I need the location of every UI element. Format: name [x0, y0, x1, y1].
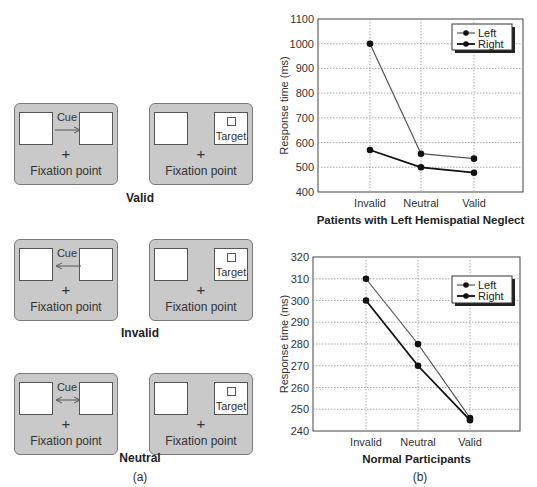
target-label: Target [215, 130, 247, 142]
cue-arrow-right-icon [55, 126, 81, 134]
y-tick-label: 1100 [290, 13, 314, 25]
x-tick-label: Neutral [400, 436, 435, 448]
fixation-cross-icon: + [150, 416, 252, 431]
chart-normal-participants: 240250260270280290300310320InvalidNeutra… [278, 245, 537, 487]
cue-arrow-left-icon [55, 262, 81, 270]
y-tick-label: 800 [296, 87, 314, 99]
fixation-label: Fixation point [15, 434, 117, 448]
legend-marker-icon [463, 30, 469, 36]
legend-marker-icon [463, 41, 469, 47]
x-axis-label: Normal Participants [362, 453, 471, 465]
target-screen-valid: Target+Fixation point [149, 103, 253, 185]
condition-label-valid: Valid [0, 191, 280, 205]
legend-marker-icon [463, 282, 469, 288]
fixation-cross-icon: + [150, 146, 252, 161]
x-axis-label: Patients with Left Hemispatial Neglect [317, 214, 525, 226]
target-screen-invalid: Target+Fixation point [149, 239, 253, 321]
x-tick-label: Invalid [354, 197, 386, 209]
y-tick-label: 250 [291, 403, 309, 415]
target-square-icon [227, 253, 236, 262]
chart-neglect-patients: 40050060070080090010001100InvalidNeutral… [278, 0, 537, 232]
y-tick-label: 260 [291, 382, 309, 394]
target-location-box: Target [214, 112, 248, 145]
target-label: Target [215, 266, 247, 278]
cue-arrow-both-icon [55, 396, 81, 404]
left-location-box [19, 248, 53, 281]
left-location-box [154, 382, 188, 415]
fixation-label: Fixation point [150, 434, 252, 448]
x-tick-label: Valid [458, 436, 482, 448]
y-tick-label: 270 [291, 360, 309, 372]
y-tick-label: 500 [296, 161, 314, 173]
data-point-left [415, 341, 422, 348]
cue-label: Cue [53, 381, 81, 393]
target-square-icon [227, 387, 236, 396]
cue-screen-valid: Cue+Fixation point [14, 103, 118, 185]
fixation-label: Fixation point [15, 300, 117, 314]
left-location-box [19, 112, 53, 145]
data-point-left [363, 275, 370, 282]
fixation-label: Fixation point [150, 300, 252, 314]
y-tick-label: 700 [296, 112, 314, 124]
fixation-cross-icon: + [15, 416, 117, 431]
data-point-left [471, 155, 478, 162]
panel-a-label: (a) [0, 470, 280, 484]
fixation-label: Fixation point [15, 164, 117, 178]
data-point-left [418, 150, 425, 157]
data-point-right [467, 417, 474, 424]
y-tick-label: 900 [296, 62, 314, 74]
x-tick-label: Invalid [350, 436, 382, 448]
data-point-right [415, 362, 422, 369]
fixation-cross-icon: + [150, 282, 252, 297]
data-point-right [471, 169, 478, 176]
data-point-right [367, 147, 374, 154]
y-tick-label: 310 [291, 273, 309, 285]
cue-screen-invalid: Cue+Fixation point [14, 239, 118, 321]
right-location-box [79, 112, 113, 145]
cue-label: Cue [53, 247, 81, 259]
data-point-right [363, 297, 370, 304]
fixation-cross-icon: + [15, 282, 117, 297]
legend-marker-icon [463, 293, 469, 299]
y-tick-label: 290 [291, 316, 309, 328]
left-location-box [154, 112, 188, 145]
y-tick-label: 1000 [290, 38, 314, 50]
target-screen-neutral: Target+Fixation point [149, 373, 253, 455]
x-tick-label: Valid [462, 197, 486, 209]
data-point-left [367, 40, 374, 47]
y-tick-label: 240 [291, 425, 309, 437]
fixation-cross-icon: + [15, 146, 117, 161]
panel-b-label: (b) [380, 470, 460, 484]
target-location-box: Target [214, 382, 248, 415]
target-square-icon [227, 117, 236, 126]
left-location-box [19, 382, 53, 415]
y-axis-label: Response time (ms) [278, 295, 290, 393]
right-location-box [79, 382, 113, 415]
left-location-box [154, 248, 188, 281]
cue-screen-neutral: Cue+Fixation point [14, 373, 118, 455]
y-tick-label: 300 [291, 295, 309, 307]
condition-label-invalid: Invalid [0, 326, 280, 340]
right-location-box [79, 248, 113, 281]
y-tick-label: 400 [296, 186, 314, 198]
legend-label-right: Right [478, 290, 504, 302]
target-label: Target [215, 400, 247, 412]
legend-label-right: Right [478, 38, 504, 50]
target-location-box: Target [214, 248, 248, 281]
cue-label: Cue [53, 111, 81, 123]
y-tick-label: 320 [291, 251, 309, 263]
y-axis-label: Response time (ms) [278, 56, 290, 154]
y-tick-label: 600 [296, 137, 314, 149]
y-tick-label: 280 [291, 338, 309, 350]
data-point-right [418, 164, 425, 171]
fixation-label: Fixation point [150, 164, 252, 178]
condition-label-neutral: Neutral [0, 451, 280, 465]
x-tick-label: Neutral [403, 197, 438, 209]
